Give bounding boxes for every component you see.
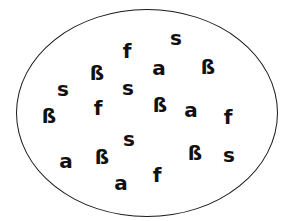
set-element: a: [59, 151, 73, 171]
set-element: f: [94, 98, 103, 118]
set-diagram: ß f s a ß s s ß f ß a f s a ß ß s a f: [0, 0, 286, 221]
set-element: ß: [153, 95, 167, 115]
set-element: ß: [188, 143, 202, 163]
set-element: s: [57, 79, 69, 99]
set-element: s: [122, 78, 134, 98]
set-element: ß: [201, 57, 215, 77]
set-element: s: [170, 28, 182, 48]
set-element: a: [114, 173, 128, 193]
set-element: a: [152, 58, 166, 78]
set-element: ß: [90, 63, 104, 83]
set-element: ß: [95, 147, 109, 167]
set-element: f: [123, 41, 132, 61]
set-element: f: [224, 107, 233, 127]
set-element: s: [223, 145, 235, 165]
set-element: ß: [42, 106, 56, 126]
set-element: f: [153, 165, 162, 185]
set-element: a: [184, 100, 198, 120]
set-element: s: [123, 129, 135, 149]
